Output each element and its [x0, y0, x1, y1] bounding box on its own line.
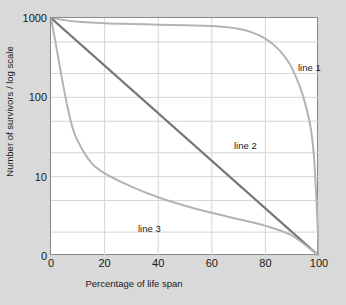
data-curves — [51, 18, 319, 256]
x-tick-100: 100 — [310, 257, 328, 269]
curve-line-2 — [51, 18, 319, 256]
x-tick-60: 60 — [206, 257, 218, 269]
chart-canvas — [51, 18, 319, 256]
x-axis-title: Percentage of life span — [0, 278, 268, 289]
series-annotation-line-1: line 1 — [298, 62, 321, 73]
y-tick-1000: 1000 — [23, 12, 47, 24]
x-tick-0: 0 — [48, 257, 54, 269]
series-annotation-line-2: line 2 — [234, 140, 257, 151]
x-tick-80: 80 — [259, 257, 271, 269]
series-annotation-line-3: line 3 — [138, 223, 161, 234]
x-tick-40: 40 — [152, 257, 164, 269]
x-tick-20: 20 — [98, 257, 110, 269]
y-tick-100: 100 — [29, 91, 47, 103]
y-tick-0: 0 — [41, 250, 47, 262]
plot-area: 1000100100 020406080100 line 1 line 2 li… — [50, 17, 318, 255]
survivorship-curve-figure: 1000100100 020406080100 line 1 line 2 li… — [0, 0, 346, 305]
y-axis-title: Number of survivors / log scale — [4, 0, 15, 237]
y-tick-10: 10 — [35, 171, 47, 183]
